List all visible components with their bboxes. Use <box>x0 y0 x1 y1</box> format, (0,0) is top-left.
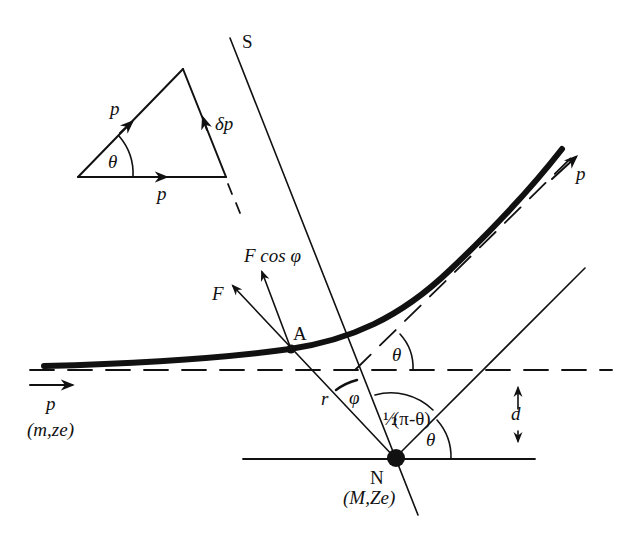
incoming-p-label: p <box>44 393 56 414</box>
point-a-marker <box>287 345 296 354</box>
arrow-icon <box>120 122 132 133</box>
outgoing-asymptote-dashed <box>355 155 574 370</box>
nucleus-theta-arc <box>437 420 451 459</box>
nucleus-marker <box>387 449 405 467</box>
force-f-cos-phi-vector <box>262 272 291 349</box>
radius-r-label: r <box>321 388 329 409</box>
arrow-icon <box>203 118 207 130</box>
triangle-p-incline-label: p <box>108 98 120 119</box>
triangle-p-base-label: p <box>155 183 167 204</box>
rutherford-scattering-diagram: S p p δp θ p θ p (m,ze) F F cos φ A r φ <box>0 0 617 538</box>
nucleus-n-label: N <box>370 467 384 488</box>
angle-phi-label: φ <box>349 387 360 408</box>
point-a-label: A <box>293 323 307 344</box>
triangle-theta-label: θ <box>108 151 117 172</box>
triangle-delta-p-label: δp <box>215 113 233 134</box>
impact-parameter-d-label: d <box>511 403 521 424</box>
outgoing-p-label: p <box>574 163 586 184</box>
radius-line <box>233 286 395 458</box>
axis-s-label: S <box>242 31 253 52</box>
nucleus-theta-label: θ <box>426 429 435 450</box>
half-angle-label: (π-θ) <box>393 408 431 430</box>
symmetry-axis-line <box>230 38 418 515</box>
exit-theta-arc <box>400 334 413 370</box>
exit-theta-label: θ <box>392 344 401 365</box>
triangle-extension-dash <box>236 203 240 213</box>
theta-arc <box>119 136 133 177</box>
nucleus-props-label: (M,Ze) <box>343 487 395 509</box>
force-f-label: F <box>211 283 224 304</box>
momentum-triangle: p p δp θ <box>78 69 240 213</box>
triangle-extension-dash <box>228 184 232 194</box>
force-f-cos-phi-label: F cos φ <box>243 245 301 266</box>
incoming-particle-label: (m,ze) <box>27 419 74 441</box>
